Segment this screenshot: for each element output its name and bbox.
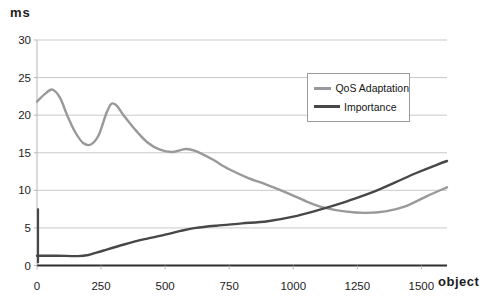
x-tick-label: 250 [91,280,110,292]
y-tick-label: 5 [25,222,31,234]
line-chart-svg: 0510152025300250500750100012501500 [0,0,488,308]
legend-item-qos-adaptation: QoS Adaptation [314,82,409,94]
x-tick-label: 750 [220,280,239,292]
y-tick-label: 0 [25,260,31,272]
x-tick-label: 1250 [345,280,371,292]
x-tick-label: 500 [156,280,175,292]
qos-line-chart: 0510152025300250500750100012501500 ms ob… [0,0,488,308]
y-tick-label: 10 [18,184,31,196]
legend-label-qos-adaptation: QoS Adaptation [335,82,409,94]
y-tick-label: 30 [18,34,31,46]
chart-legend: QoS Adaptation Importance [307,73,410,122]
x-tick-label: 0 [34,280,40,292]
importance-line-swatch [314,105,340,108]
x-axis-unit-label: object [438,274,479,289]
y-axis-unit-label: ms [10,5,31,20]
legend-item-importance: Importance [314,101,409,113]
x-tick-label: 1000 [280,280,306,292]
qos-adaptation-line-swatch [314,87,331,90]
y-tick-label: 25 [18,72,31,84]
y-tick-label: 15 [18,147,31,159]
x-tick-label: 1500 [409,280,435,292]
legend-label-importance: Importance [344,101,397,113]
y-tick-label: 20 [18,109,31,121]
